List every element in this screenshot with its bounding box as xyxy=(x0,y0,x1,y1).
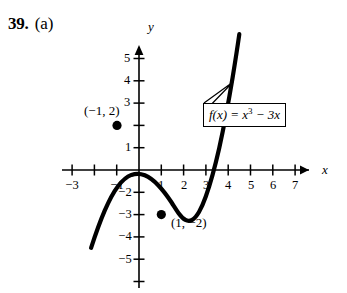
x-tick-label-3: 3 xyxy=(203,179,209,192)
x-tick-label--3: −3 xyxy=(65,179,78,192)
formula-lhs: f(x) = x xyxy=(209,107,248,122)
y-tick-label-5: 5 xyxy=(124,52,130,65)
y-tick-label--5: −5 xyxy=(118,253,131,266)
x-tick-label-5: 5 xyxy=(248,179,254,192)
y-axis-arrowhead xyxy=(135,45,144,55)
x-tick-label-7: 7 xyxy=(292,179,298,192)
x-axis-label: x xyxy=(322,163,328,176)
graph-plot xyxy=(0,0,347,293)
y-tick-label--4: −4 xyxy=(118,230,131,243)
y-tick-label--3: −3 xyxy=(118,208,131,221)
local-maximum-label: (−1, 2) xyxy=(84,104,120,118)
y-tick-label-3: 3 xyxy=(124,96,130,109)
formula-callout-box: f(x) = x3 − 3x xyxy=(203,103,286,127)
x-tick-label-4: 4 xyxy=(225,179,231,192)
x-tick-label-1: 1 xyxy=(158,179,164,192)
x-tick-label-2: 2 xyxy=(181,179,187,192)
x-tick-label-6: 6 xyxy=(270,179,276,192)
y-axis-label: y xyxy=(148,20,154,33)
textbook-figure: 39.(a) xyxy=(0,0,347,293)
y-tick-label--2: −2 xyxy=(118,186,131,199)
formula-rhs: − 3x xyxy=(253,107,281,122)
y-tick-label-4: 4 xyxy=(124,74,130,87)
local-minimum-label: (1, −2) xyxy=(171,216,207,230)
x-axis-arrowhead xyxy=(300,166,309,175)
local-minimum-point xyxy=(157,210,166,219)
local-maximum-point xyxy=(112,121,121,130)
formula-text: f(x) = x3 − 3x xyxy=(209,107,280,122)
y-tick-label-1: 1 xyxy=(125,141,131,154)
